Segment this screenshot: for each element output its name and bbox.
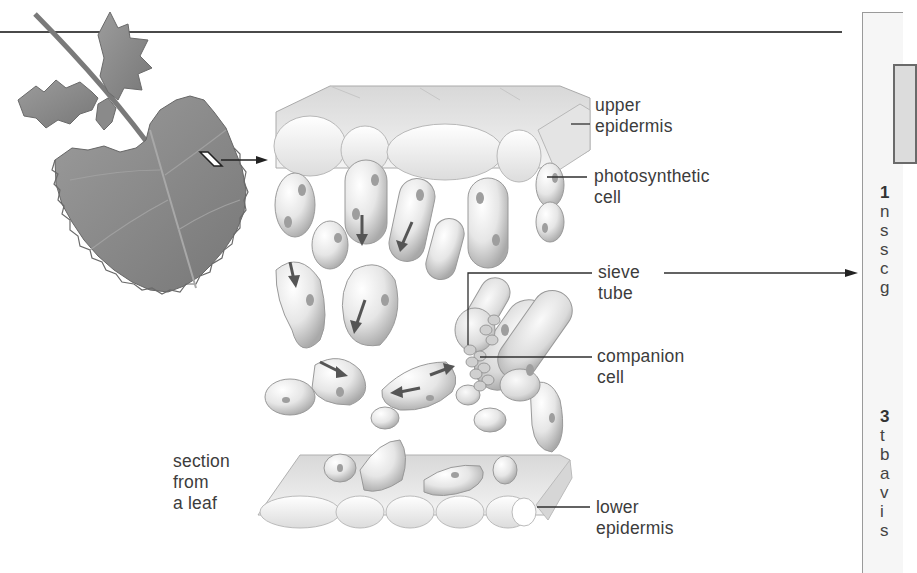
label-photosynthetic-cell: photosynthetic cell: [594, 166, 710, 208]
leaf-icon: [18, 12, 248, 294]
label-line: epidermis: [596, 518, 674, 539]
label-lower-epidermis: lower epidermis: [596, 497, 674, 539]
panel-arrow-icon: [845, 269, 858, 277]
label-upper-epidermis: upper epidermis: [595, 95, 673, 137]
label-line: section: [173, 451, 230, 472]
label-sieve-tube: sieve tube: [598, 262, 640, 304]
lower-epidermis-layer: [258, 440, 572, 528]
label-line: cell: [594, 187, 710, 208]
label-line: cell: [597, 367, 684, 388]
label-line: sieve: [598, 262, 640, 283]
label-line: epidermis: [595, 116, 673, 137]
label-line: upper: [595, 95, 673, 116]
label-section-from-leaf: section from a leaf: [173, 451, 230, 514]
label-line: companion: [597, 346, 684, 367]
label-line: a leaf: [173, 493, 230, 514]
label-line: photosynthetic: [594, 166, 710, 187]
label-companion-cell: companion cell: [597, 346, 684, 388]
vascular-bundle: [455, 272, 581, 405]
label-line: from: [173, 472, 230, 493]
label-line: lower: [596, 497, 674, 518]
label-line: tube: [598, 283, 640, 304]
